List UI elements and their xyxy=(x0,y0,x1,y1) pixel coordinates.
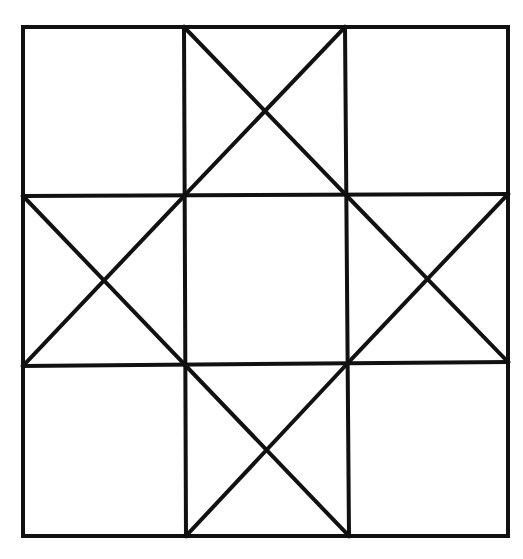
vertical-grid-line-2 xyxy=(345,27,349,536)
horizontal-grid-line-2 xyxy=(23,362,508,366)
horizontal-grid-line-1 xyxy=(23,194,508,196)
vertical-grid-line-1 xyxy=(184,27,186,536)
grid-lines xyxy=(23,27,508,536)
star-diagonals xyxy=(23,27,508,536)
quilt-star-diagram xyxy=(0,0,523,559)
outer-border xyxy=(23,27,508,536)
outer-square xyxy=(23,27,508,536)
